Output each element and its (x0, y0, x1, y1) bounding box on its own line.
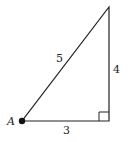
base-length-label: 3 (63, 124, 70, 137)
right-triangle (22, 7, 109, 121)
right-angle-marker (99, 112, 109, 121)
vertex-a-point (19, 118, 25, 124)
triangle-diagram: A 3 4 5 (0, 0, 130, 142)
vertex-a-label: A (6, 115, 15, 128)
hypotenuse-length-label: 5 (56, 52, 63, 65)
height-length-label: 4 (113, 63, 120, 76)
